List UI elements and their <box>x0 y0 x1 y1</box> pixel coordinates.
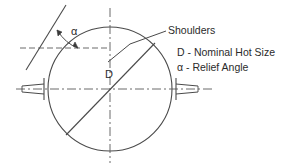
diagram-canvas: Shoulders D - Nominal Hot Size α - Relie… <box>0 0 282 167</box>
relief-angle-tangent-line <box>26 5 66 70</box>
left-shoulder-upper-flare <box>22 84 44 86</box>
legend-relief-angle: α - Relief Angle <box>177 62 248 73</box>
legend-nominal-hot-size: D - Nominal Hot Size <box>177 47 275 58</box>
technical-drawing <box>0 0 282 167</box>
shoulders-leader-line-extension <box>108 44 130 62</box>
left-shoulder-lower-flare <box>22 92 44 94</box>
diameter-symbol-label: D <box>105 69 113 80</box>
right-shoulder-upper-flare <box>176 84 198 86</box>
relief-angle-symbol-label: α <box>71 26 77 37</box>
relief-angle-arrow-head-lower <box>73 42 78 48</box>
right-shoulder-lower-flare <box>176 92 198 94</box>
shoulders-label: Shoulders <box>168 25 215 36</box>
